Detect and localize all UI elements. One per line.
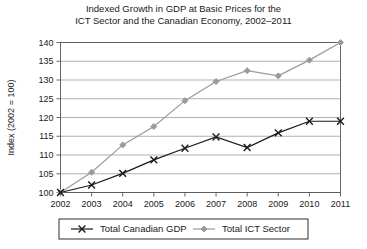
data-point-marker	[244, 68, 250, 74]
data-point-marker	[275, 129, 282, 136]
data-point-marker	[338, 40, 344, 46]
data-point-marker	[306, 57, 312, 63]
y-tick-label: 125	[38, 94, 53, 104]
y-tick-label: 130	[38, 75, 53, 85]
chart-legend: Total Canadian GDPTotal ICT Sector	[59, 219, 308, 239]
y-axis-ticks-group: 100105110115120125130135140	[38, 38, 60, 198]
x-tick-label: 2005	[144, 199, 164, 209]
chart-figure: Indexed Growth in GDP at Basic Prices fo…	[0, 0, 367, 249]
x-tick-label: 2006	[175, 199, 195, 209]
series-line	[61, 121, 341, 192]
y-tick-label: 140	[38, 38, 53, 48]
series-gdp	[57, 118, 344, 196]
y-tick-label: 115	[39, 131, 53, 141]
x-tick-label: 2004	[113, 199, 133, 209]
y-axis-title-text: Index (2002 = 100)	[6, 80, 16, 156]
data-point-marker	[213, 134, 220, 141]
x-tick-label: 2011	[331, 199, 350, 209]
y-tick-label: 100	[38, 188, 53, 198]
x-tick-label: 2007	[206, 199, 226, 209]
x-axis-ticks-group: 2002200320042005200620072008200920102011	[50, 193, 350, 209]
x-tick-label: 2010	[299, 199, 319, 209]
legend-label: Total Canadian GDP	[100, 223, 187, 234]
data-point-marker	[150, 156, 157, 163]
data-point-marker	[275, 73, 281, 79]
y-axis-title: Index (2002 = 100)	[6, 80, 16, 156]
data-point-marker	[182, 145, 189, 152]
data-point-marker	[244, 144, 251, 151]
x-tick-label: 2009	[268, 199, 288, 209]
y-tick-label: 120	[38, 113, 53, 123]
x-tick-label: 2003	[82, 199, 102, 209]
line-chart-plot: 100105110115120125130135140 200220032004…	[0, 0, 367, 249]
x-tick-label: 2002	[50, 199, 70, 209]
y-tick-label: 110	[39, 150, 53, 160]
data-point-marker	[213, 79, 219, 85]
y-tick-label: 105	[38, 169, 53, 179]
legend-label: Total ICT Sector	[222, 223, 290, 234]
y-tick-label: 135	[38, 56, 53, 66]
x-tick-label: 2008	[237, 199, 257, 209]
